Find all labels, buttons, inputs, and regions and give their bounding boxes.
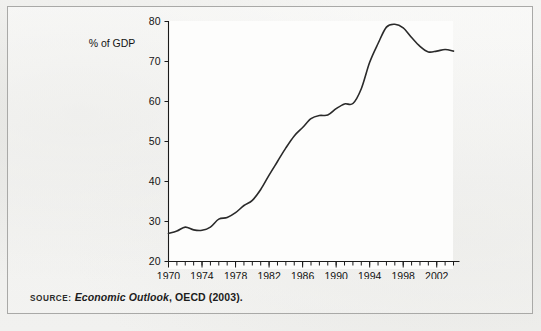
chart-plot-area: 20304050607080 1970197419781982198619901… bbox=[8, 7, 534, 279]
line-chart: 20304050607080 1970197419781982198619901… bbox=[8, 7, 534, 279]
y-tick-label: 30 bbox=[149, 215, 161, 227]
y-axis-title: % of GDP bbox=[89, 37, 136, 49]
source-note: SOURCE: Economic Outlook, OECD (2003). bbox=[30, 291, 243, 303]
y-axis-ticks bbox=[165, 22, 169, 262]
x-tick-label: 1994 bbox=[358, 270, 382, 280]
y-tick-label: 40 bbox=[149, 175, 161, 187]
y-tick-label: 80 bbox=[149, 15, 161, 27]
x-tick-label: 1986 bbox=[291, 270, 315, 280]
plot-background bbox=[168, 21, 453, 269]
y-axis-tick-labels: 20304050607080 bbox=[149, 15, 161, 267]
y-tick-label: 20 bbox=[149, 255, 161, 267]
y-tick-label: 50 bbox=[149, 135, 161, 147]
x-tick-label: 1978 bbox=[224, 270, 248, 280]
x-tick-label: 1974 bbox=[190, 270, 214, 280]
source-rest: , OECD (2003). bbox=[169, 291, 243, 303]
x-tick-label: 1982 bbox=[257, 270, 281, 280]
x-tick-label: 1990 bbox=[324, 270, 348, 280]
source-title: Economic Outlook bbox=[75, 291, 169, 303]
y-tick-label: 70 bbox=[149, 55, 161, 67]
x-tick-label: 1998 bbox=[392, 270, 416, 280]
y-tick-label: 60 bbox=[149, 95, 161, 107]
x-tick-label: 1970 bbox=[157, 270, 181, 280]
figure-box: 20304050607080 1970197419781982198619901… bbox=[7, 6, 533, 314]
x-axis-tick-labels: 197019741978198219861990199419982002 bbox=[157, 270, 449, 280]
source-kicker: SOURCE: bbox=[30, 294, 72, 303]
x-tick-label: 2002 bbox=[425, 270, 449, 280]
